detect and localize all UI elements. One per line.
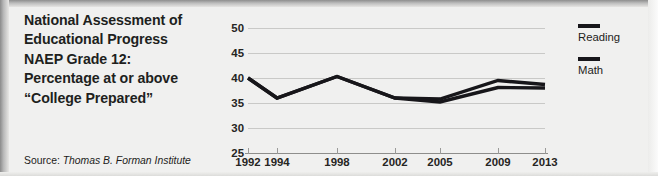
x-tick-label: 1992 bbox=[235, 156, 260, 168]
x-tick-label: 2002 bbox=[382, 156, 407, 168]
legend-entry-reading: Reading bbox=[578, 24, 620, 44]
chart-figure: National Assessment of Educational Progr… bbox=[0, 0, 658, 176]
x-tick-label: 2009 bbox=[485, 156, 510, 168]
x-tick-label: 1998 bbox=[324, 156, 349, 168]
x-tick bbox=[277, 148, 278, 154]
x-tick bbox=[248, 148, 249, 154]
legend-label-reading: Reading bbox=[578, 31, 620, 44]
legend-swatch-reading bbox=[578, 24, 600, 28]
x-tick-label: 2013 bbox=[532, 156, 557, 168]
legend-entry-math: Math bbox=[578, 57, 620, 77]
x-tick bbox=[498, 148, 499, 154]
legend-label-math: Math bbox=[578, 64, 620, 77]
x-tick-label: 1994 bbox=[264, 156, 289, 168]
legend-swatch-math bbox=[578, 57, 600, 61]
x-tick bbox=[545, 148, 546, 154]
data-series-layer bbox=[0, 0, 658, 176]
chart-legend: Reading Math bbox=[578, 24, 620, 90]
x-tick-label: 2005 bbox=[427, 156, 452, 168]
x-tick bbox=[395, 148, 396, 154]
x-tick bbox=[440, 148, 441, 154]
x-tick bbox=[337, 148, 338, 154]
